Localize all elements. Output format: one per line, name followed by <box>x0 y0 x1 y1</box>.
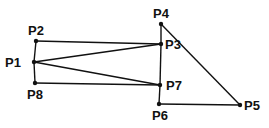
edge-p3-p7 <box>160 44 161 85</box>
point-label-p3: P3 <box>165 37 181 52</box>
edge-p2-p3 <box>36 41 161 44</box>
point-label-p8: P8 <box>27 87 43 102</box>
edge-p1-p8 <box>34 62 35 83</box>
point-label-p2: P2 <box>28 23 44 38</box>
point-p3 <box>159 42 163 46</box>
edge-p1-p7 <box>34 62 160 85</box>
point-p7 <box>158 83 162 87</box>
point-p1 <box>32 60 36 64</box>
point-p8 <box>33 81 37 85</box>
edge-p2-p1 <box>34 41 36 62</box>
edge-p7-p6 <box>159 85 160 104</box>
point-label-p7: P7 <box>166 78 182 93</box>
point-label-p5: P5 <box>244 98 260 113</box>
edges-group <box>34 24 240 105</box>
polygon-points-diagram: P1P2P3P4P5P6P7P8 <box>0 0 269 128</box>
edge-p8-p7 <box>35 83 160 85</box>
point-label-p4: P4 <box>153 6 170 21</box>
edge-p1-p3 <box>34 44 161 62</box>
point-p2 <box>34 39 38 43</box>
points-group <box>32 22 242 107</box>
edge-p6-p5 <box>159 104 240 105</box>
diagram-canvas: P1P2P3P4P5P6P7P8 <box>0 0 269 128</box>
point-label-p6: P6 <box>152 108 168 123</box>
point-p4 <box>159 22 163 26</box>
point-p5 <box>238 103 242 107</box>
point-label-p1: P1 <box>5 55 21 70</box>
point-p6 <box>157 102 161 106</box>
